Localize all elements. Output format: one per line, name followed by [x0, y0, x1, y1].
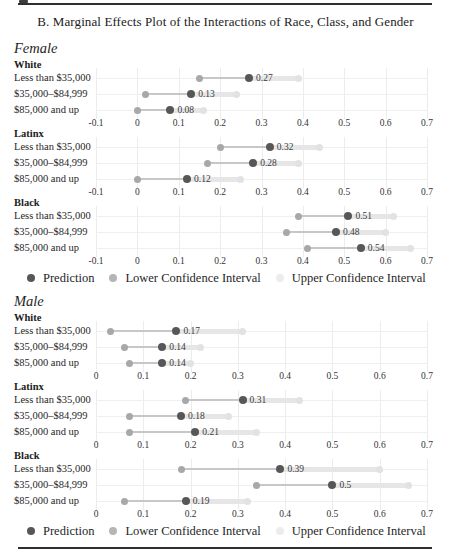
lower-ci-dot-icon [109, 274, 117, 282]
lower-ci-dot [283, 229, 290, 236]
row-85-000-and-up: $85,000 and up0.21 [0, 424, 451, 440]
upper-ci-dot [407, 245, 414, 252]
group-latinx: LatinxLess than $35,0000.32$35,000–$84,9… [0, 128, 451, 197]
lower-ci-dot [126, 360, 133, 367]
row-label: $35,000–$84,999 [14, 410, 88, 421]
upper-ci-dot [200, 107, 207, 114]
row-less-than-35-000: Less than $35,0000.31 [0, 392, 451, 408]
lower-ci-segment [110, 330, 176, 332]
group-latinx: LatinxLess than $35,0000.31$35,000–$84,9… [0, 381, 451, 450]
lower-ci-dot [121, 498, 128, 505]
lower-ci-segment [124, 500, 185, 502]
axis-tick: 0 [135, 256, 140, 266]
axis-tick: 0.4 [297, 118, 309, 128]
row-track: 0.12 [96, 171, 427, 187]
axis-tick: 0.1 [137, 509, 149, 519]
row-85-000-and-up: $85,000 and up0.08 [0, 102, 451, 118]
axis-tick: 0.2 [214, 118, 226, 128]
prediction-value: 0.27 [256, 73, 273, 83]
row-label: $85,000 and up [14, 426, 79, 437]
prediction-value: 0.21 [202, 427, 219, 437]
axis-tick: 0.7 [421, 118, 433, 128]
prediction-value: 0.28 [260, 158, 277, 168]
group-black: BlackLess than $35,0000.51$35,000–$84,99… [0, 197, 451, 266]
upper-ci-dot [295, 75, 302, 82]
row-label: Less than $35,000 [14, 463, 91, 474]
lower-ci-dot [204, 160, 211, 167]
prediction-value: 0.31 [250, 395, 267, 405]
row-track: 0.51 [96, 208, 427, 224]
plot-area: Less than $35,0000.17$35,000–$84,9990.14… [0, 323, 451, 371]
prediction-dot [158, 343, 166, 351]
plot-area: Less than $35,0000.39$35,000–$84,9990.5$… [0, 461, 451, 509]
axis-tick: 0.2 [185, 509, 197, 519]
axis-tick: 0 [94, 440, 99, 450]
panel-female: Female WhiteLess than $35,0000.27$35,000… [0, 40, 451, 266]
legend-item-lower-ci: Lower Confidence Interval [109, 524, 260, 539]
lower-ci-dot [217, 144, 224, 151]
axis-tick: 0.3 [256, 256, 268, 266]
axis-tick: 0.7 [421, 187, 433, 197]
lower-ci-segment [199, 77, 249, 79]
prediction-dot [332, 228, 340, 236]
upper-ci-dot [225, 413, 232, 420]
axis-tick: 0.6 [374, 509, 386, 519]
axis-tick: 0.3 [256, 187, 268, 197]
lower-ci-segment [220, 146, 270, 148]
axis-tick: 0.5 [338, 118, 350, 128]
axis-tick: -0.1 [88, 118, 103, 128]
upper-ci-dot [316, 144, 323, 151]
row-track: 0.39 [96, 461, 427, 477]
upper-ci-dot [233, 91, 240, 98]
plot-area: Less than $35,0000.51$35,000–$84,9990.48… [0, 208, 451, 256]
legend-label-lower-ci: Lower Confidence Interval [125, 271, 260, 286]
row-label: $35,000–$84,999 [14, 226, 88, 237]
axis-tick: 0.6 [380, 256, 392, 266]
bottom-rule [18, 547, 432, 549]
legend-label-upper-ci: Upper Confidence Interval [292, 271, 426, 286]
legend-item-upper-ci: Upper Confidence Interval [276, 524, 426, 539]
prediction-value: 0.54 [368, 243, 385, 253]
upper-ci-dot [382, 229, 389, 236]
x-axis: 00.10.20.30.40.50.60.7 [96, 440, 427, 450]
upper-ci-dot [187, 360, 194, 367]
lower-ci-dot [134, 176, 141, 183]
row-track: 0.14 [96, 355, 427, 371]
lower-ci-dot [142, 91, 149, 98]
x-axis: -0.100.10.20.30.40.50.60.7 [96, 256, 427, 266]
row-label: $35,000–$84,999 [14, 479, 88, 490]
row-label: Less than $35,000 [14, 325, 91, 336]
axis-tick: 0 [135, 118, 140, 128]
x-axis: -0.100.10.20.30.40.50.60.7 [96, 118, 427, 128]
axis-tick: 0.7 [421, 440, 433, 450]
axis-tick: 0.4 [279, 440, 291, 450]
prediction-dot [187, 90, 195, 98]
axis-tick: -0.1 [88, 256, 103, 266]
plot-area: Less than $35,0000.31$35,000–$84,9990.18… [0, 392, 451, 440]
upper-ci-dot [239, 328, 246, 335]
prediction-dot [266, 143, 274, 151]
axis-tick: 0.4 [297, 187, 309, 197]
row-track: 0.32 [96, 139, 427, 155]
axis-tick: 0.2 [185, 371, 197, 381]
axis-tick: 0.3 [232, 371, 244, 381]
prediction-dot [357, 244, 365, 252]
prediction-dot [344, 212, 352, 220]
axis-tick: 0.1 [173, 187, 185, 197]
row-85-000-and-up: $85,000 and up0.54 [0, 240, 451, 256]
row-85-000-and-up: $85,000 and up0.14 [0, 355, 451, 371]
prediction-value: 0.48 [343, 227, 360, 237]
prediction-value: 0.39 [287, 464, 304, 474]
row-35-000-84-999: $35,000–$84,9990.28 [0, 155, 451, 171]
row-35-000-84-999: $35,000–$84,9990.48 [0, 224, 451, 240]
row-85-000-and-up: $85,000 and up0.12 [0, 171, 451, 187]
axis-tick: 0.3 [232, 509, 244, 519]
lower-ci-segment [146, 93, 192, 95]
lower-ci-dot [178, 466, 185, 473]
lower-ci-segment [257, 484, 333, 486]
legend-label-prediction: Prediction [43, 271, 94, 286]
figure-title: B. Marginal Effects Plot of the Interact… [0, 14, 451, 30]
axis-tick: 0.5 [326, 371, 338, 381]
prediction-dot [245, 74, 253, 82]
upper-ci-dot [296, 397, 303, 404]
